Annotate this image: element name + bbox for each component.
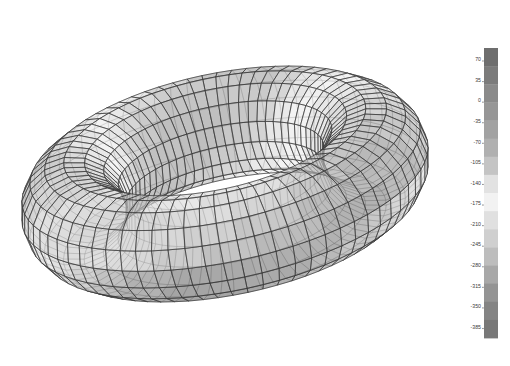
mesh-element — [136, 230, 153, 251]
colorbar-tick-label: -70 — [474, 139, 482, 145]
mesh-element — [199, 206, 216, 226]
mesh-element — [229, 102, 240, 124]
colorbar-tick-label: -35 — [474, 118, 482, 124]
mesh-element — [364, 98, 386, 104]
colorbar-band — [484, 66, 498, 85]
mesh-element — [365, 103, 386, 109]
mesh-element — [248, 101, 257, 122]
colorbar-tick-label: -280 — [471, 262, 481, 268]
colorbar-tick-mark — [482, 102, 483, 103]
colorbar-tick-mark — [482, 163, 483, 164]
mesh-element — [306, 127, 311, 149]
colorbar-tick-label: -140 — [471, 180, 481, 186]
colorbar-band — [484, 320, 498, 339]
colorbar-tick-label: -315 — [471, 283, 481, 289]
colorbar-tick-mark — [482, 287, 483, 288]
colorbar-band — [484, 157, 498, 176]
colorbar-band — [484, 175, 498, 194]
colorbar-band — [484, 121, 498, 140]
colorbar-band — [484, 139, 498, 158]
mesh-element — [168, 211, 185, 230]
colorbar-tick-mark — [482, 307, 483, 308]
mesh-element — [228, 85, 239, 104]
colorbar-band — [484, 302, 498, 321]
colorbar-tick-mark — [482, 184, 483, 185]
mesh-element — [184, 209, 200, 228]
colorbar-svg: 70350-35-70-105-140-175-210-245-280-315-… — [460, 0, 510, 366]
colorbar-band — [484, 84, 498, 103]
colorbar-band — [484, 211, 498, 230]
colorbar-tick-label: -210 — [471, 221, 481, 227]
colorbar-tick-mark — [482, 122, 483, 123]
torus-front-faces — [22, 66, 428, 302]
mesh-element — [311, 130, 315, 152]
colorbar-tick-mark — [482, 143, 483, 144]
mesh-element — [220, 240, 242, 263]
colorbar-tick-mark — [482, 246, 483, 247]
colorbar-tick-label: -385 — [471, 324, 481, 330]
figure-canvas: 70350-35-70-105-140-175-210-245-280-315-… — [0, 0, 510, 366]
mesh-element — [168, 228, 185, 250]
colorbar-tick-mark — [482, 81, 483, 82]
mesh-element — [152, 250, 171, 271]
mesh-element — [184, 226, 203, 248]
colorbar: 70350-35-70-105-140-175-210-245-280-315-… — [460, 0, 510, 366]
torus-mesh-svg — [0, 0, 460, 366]
mesh-element — [64, 158, 85, 163]
mesh-element — [68, 243, 81, 266]
mesh-element — [106, 229, 123, 250]
colorbar-band — [484, 266, 498, 285]
colorbar-tick-mark — [482, 225, 483, 226]
colorbar-band — [484, 247, 498, 266]
colorbar-tick-label: -175 — [471, 200, 481, 206]
colorbar-tick-label: 0 — [478, 97, 481, 103]
colorbar-tick-label: 70 — [475, 56, 481, 62]
colorbar-tick-mark — [482, 204, 483, 205]
colorbar-band — [484, 102, 498, 121]
mesh-element — [152, 230, 169, 251]
colorbar-tick-label: -350 — [471, 303, 481, 309]
mesh-element — [79, 246, 93, 268]
mesh-element — [106, 250, 123, 271]
mesh-element — [217, 86, 229, 105]
colorbar-band — [484, 48, 498, 67]
colorbar-band — [484, 193, 498, 212]
colorbar-tick-mark — [482, 328, 483, 329]
plot-area — [0, 0, 460, 366]
colorbar-tick-label: -105 — [471, 159, 481, 165]
mesh-element — [92, 248, 107, 270]
mesh-element — [136, 251, 155, 271]
colorbar-tick-label: -245 — [471, 241, 481, 247]
mesh-element — [120, 230, 137, 251]
mesh-element — [120, 251, 138, 272]
colorbar-tick-mark — [482, 60, 483, 61]
colorbar-tick-label: 35 — [475, 77, 481, 83]
colorbar-band — [484, 229, 498, 248]
colorbar-band — [484, 284, 498, 303]
colorbar-tick-mark — [482, 266, 483, 267]
mesh-element — [239, 102, 249, 123]
